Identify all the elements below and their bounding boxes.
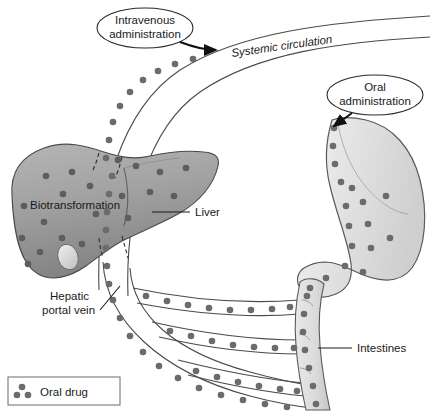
intestine-body [295, 279, 330, 410]
liver-label: Liver [195, 206, 220, 218]
drug-dot [171, 193, 178, 200]
drug-dot [79, 241, 86, 248]
drug-dot [110, 119, 117, 126]
drug-dot [104, 263, 111, 270]
hepatic-portal-vein-label-line1: Hepatic [50, 290, 89, 302]
drug-dot [157, 169, 164, 176]
drug-dot [214, 374, 221, 381]
drug-dot [256, 383, 263, 390]
portal-vein-outer-wall [103, 262, 320, 409]
drug-dot [301, 311, 308, 318]
drug-dot [304, 293, 311, 300]
drug-dot [127, 333, 134, 340]
drug-dot [103, 245, 110, 252]
drug-dot [69, 169, 76, 176]
drug-dot [140, 349, 147, 356]
drug-dot [183, 165, 190, 172]
drug-dot [262, 401, 269, 408]
drug-dot [251, 344, 258, 351]
drug-dot [294, 388, 301, 395]
drug-dot [277, 386, 284, 393]
drug-dot [87, 183, 94, 190]
portal-branch-1-lower [137, 303, 300, 316]
drug-dot [218, 392, 225, 399]
drug-dot [25, 261, 32, 268]
drug-dot [156, 363, 163, 370]
drug-dot [235, 379, 242, 386]
liver-body [12, 144, 219, 278]
hepatic-portal-vein [103, 262, 320, 409]
drug-dot [300, 329, 307, 336]
portal-branch-2-upper [152, 322, 302, 340]
drug-dot [346, 223, 353, 230]
oral-callout-line2: administration [339, 95, 411, 107]
drug-dot [349, 243, 356, 250]
drug-dot [93, 211, 100, 218]
drug-dot [383, 193, 390, 200]
drug-dot [185, 302, 192, 309]
drug-dot [133, 163, 140, 170]
systemic-circulation-label: Systemic circulation [231, 33, 333, 59]
drug-dot [127, 89, 134, 96]
hepatic-portal-vein-leader-line [100, 286, 120, 310]
drug-dot [21, 203, 28, 210]
drug-dot [41, 219, 48, 226]
legend-dot-icon [14, 392, 21, 399]
drug-dot [240, 397, 247, 404]
drug-dot [155, 68, 162, 75]
legend-dot-icon [25, 392, 32, 399]
intestines-label: Intestines [357, 342, 406, 354]
drug-dot [230, 342, 237, 349]
callout-intravenous-administration[interactable]: Intravenous administration [97, 8, 216, 50]
drug-dot [306, 365, 313, 372]
drug-dot [287, 304, 294, 311]
drug-dot [206, 305, 213, 312]
drug-dot [172, 61, 179, 68]
drug-dot [360, 269, 367, 276]
intravenous-callout-line2: administration [109, 28, 181, 40]
biotransformation-label: Biotransformation [30, 199, 120, 211]
diagram-canvas: Intravenous administration Oral administ… [0, 0, 430, 411]
drug-dot [360, 199, 367, 206]
legend: Oral drug [8, 377, 120, 405]
oral-callout-line1: Oral [364, 81, 386, 93]
drug-dot [248, 307, 255, 314]
drug-dot [103, 155, 110, 162]
drug-dot [310, 383, 317, 390]
drug-dot [193, 368, 200, 375]
drug-dot [60, 191, 67, 198]
drug-dot [332, 161, 339, 168]
drug-dot [106, 137, 113, 144]
drug-dot [164, 298, 171, 305]
drug-dot [323, 275, 330, 282]
drug-dot [125, 215, 132, 222]
drug-dot [147, 189, 154, 196]
intestine-organ [295, 279, 330, 410]
drug-dot [343, 203, 350, 210]
drug-dot [117, 315, 124, 322]
drug-dot [196, 385, 203, 392]
drug-dot [143, 293, 150, 300]
intravenous-callout-line1: Intravenous [115, 14, 175, 26]
drug-dot [106, 191, 113, 198]
drug-dot [307, 285, 314, 292]
legend-label: Oral drug [40, 386, 88, 398]
pharmacokinetics-diagram: Intravenous administration Oral administ… [0, 0, 430, 411]
drug-dot [387, 235, 394, 242]
drug-dot [272, 345, 279, 352]
hepatic-portal-vein-label-line2: portal vein [42, 304, 95, 316]
drug-dot [342, 263, 349, 270]
drug-dot [109, 173, 116, 180]
liver-organ [12, 144, 219, 278]
drug-dot [365, 221, 372, 228]
drug-dot [106, 281, 113, 288]
drug-dot [117, 103, 124, 110]
legend-dot-icon [19, 384, 26, 391]
drug-dot [269, 306, 276, 313]
drug-dot [349, 185, 356, 192]
drug-dot [140, 77, 147, 84]
portal-branch-3-lower [188, 375, 305, 396]
drug-dot [313, 401, 320, 408]
intravenous-arrow [180, 42, 216, 50]
drug-dot [115, 157, 122, 164]
